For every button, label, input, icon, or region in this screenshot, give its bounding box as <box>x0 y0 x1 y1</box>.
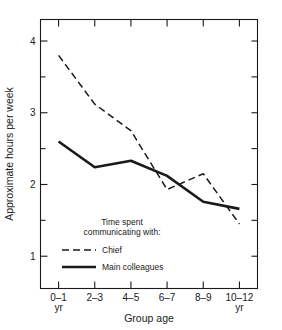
legend-label-main-colleagues: Main colleagues <box>102 262 163 272</box>
plot-frame <box>41 20 258 289</box>
y-axis-right-ticks <box>252 41 258 256</box>
data-series-layer <box>59 55 240 224</box>
series-line-main-colleagues <box>59 141 240 208</box>
y-axis-minor-ticks <box>41 77 46 220</box>
y-tick-label-1: 1 <box>30 251 36 262</box>
x-axis-tick-labels: 0–1yr2–34–56–78–910–12yr <box>50 292 254 313</box>
legend-title-line-2: communicating with: <box>83 227 160 237</box>
y-axis-tick-labels: 1234 <box>30 36 36 262</box>
y-tick-label-3: 3 <box>30 107 36 118</box>
x-tick-label-1: 2–3 <box>86 292 103 303</box>
y-tick-label-4: 4 <box>30 36 36 47</box>
legend-label-chief: Chief <box>102 245 122 255</box>
legend-title-line-1: Time spent <box>101 217 143 227</box>
x-axis-bottom-ticks <box>59 282 240 289</box>
x-axis-top-ticks <box>59 20 240 27</box>
y-axis-title: Approximate hours per week <box>3 86 15 220</box>
x-tick-label-2: 4–5 <box>123 292 140 303</box>
x-tick-sublabel-5: yr <box>235 302 244 313</box>
x-tick-label-4: 8–9 <box>195 292 212 303</box>
chart-figure: 1234 0–1yr2–34–56–78–910–12yr Approximat… <box>0 0 282 330</box>
x-axis-title: Group age <box>124 312 174 324</box>
x-tick-sublabel-0: yr <box>54 302 63 313</box>
x-tick-label-3: 6–7 <box>159 292 176 303</box>
line-chart: 1234 0–1yr2–34–56–78–910–12yr Approximat… <box>0 0 282 330</box>
y-tick-label-2: 2 <box>30 179 36 190</box>
chart-legend: Time spent communicating with: Chief Mai… <box>62 217 163 272</box>
series-line-chief <box>59 55 240 224</box>
